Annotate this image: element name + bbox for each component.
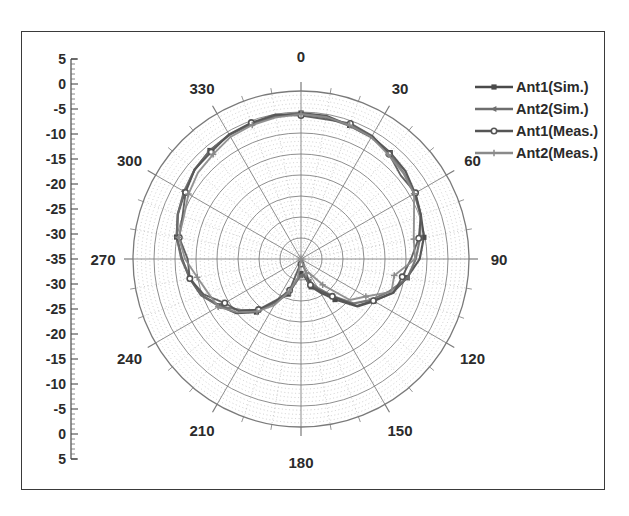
legend-label: Ant2(Sim.) [516, 101, 589, 117]
angular-tick-240: 240 [117, 350, 142, 367]
radial-tick-5: -20 [46, 176, 66, 192]
radial-tick-16: 5 [58, 451, 66, 467]
radial-tick-6: -25 [46, 201, 66, 217]
legend-swatch-triangle-left-icon [474, 100, 514, 118]
angular-tick-180: 180 [288, 454, 313, 471]
radial-tick-9: -30 [46, 276, 66, 292]
legend-swatch-square-icon [474, 78, 514, 96]
angular-tick-300: 300 [117, 152, 142, 169]
radial-tick-8: -35 [46, 251, 66, 267]
angular-tick-0: 0 [297, 48, 305, 65]
angular-tick-330: 330 [189, 79, 214, 96]
legend-entry-ant1-meas[interactable]: Ant1(Meas.) [474, 120, 624, 142]
angular-tick-150: 150 [387, 422, 412, 439]
legend-swatch-plus-icon [474, 144, 514, 162]
radial-tick-12: -15 [46, 351, 66, 367]
angular-tick-120: 120 [460, 350, 485, 367]
legend-label: Ant1(Meas.) [516, 123, 598, 139]
radial-tick-4: -15 [46, 151, 66, 167]
radial-tick-13: -10 [46, 376, 66, 392]
legend-label: Ant2(Meas.) [516, 145, 598, 161]
chart-legend: Ant1(Sim.)Ant2(Sim.)Ant1(Meas.)Ant2(Meas… [474, 76, 624, 164]
radial-tick-14: -5 [54, 401, 66, 417]
angular-tick-90: 90 [491, 251, 508, 268]
angular-tick-210: 210 [189, 422, 214, 439]
radial-tick-10: -25 [46, 301, 66, 317]
legend-entry-ant2-sim[interactable]: Ant2(Sim.) [474, 98, 624, 120]
angular-tick-270: 270 [90, 251, 115, 268]
chart-frame: 0306090120150180210240270300330 50-5-10-… [21, 31, 605, 490]
radial-tick-3: -10 [46, 126, 66, 142]
angular-tick-30: 30 [392, 79, 409, 96]
legend-label: Ant1(Sim.) [516, 79, 589, 95]
radial-tick-2: -5 [54, 101, 66, 117]
radial-tick-11: -20 [46, 326, 66, 342]
radial-tick-7: -30 [46, 226, 66, 242]
legend-entry-ant2-meas[interactable]: Ant2(Meas.) [474, 142, 624, 164]
radial-tick-0: 5 [58, 51, 66, 67]
legend-swatch-circle-icon [474, 122, 514, 140]
radial-tick-1: 0 [58, 76, 66, 92]
legend-entry-ant1-sim[interactable]: Ant1(Sim.) [474, 76, 624, 98]
radial-tick-15: 0 [58, 426, 66, 442]
